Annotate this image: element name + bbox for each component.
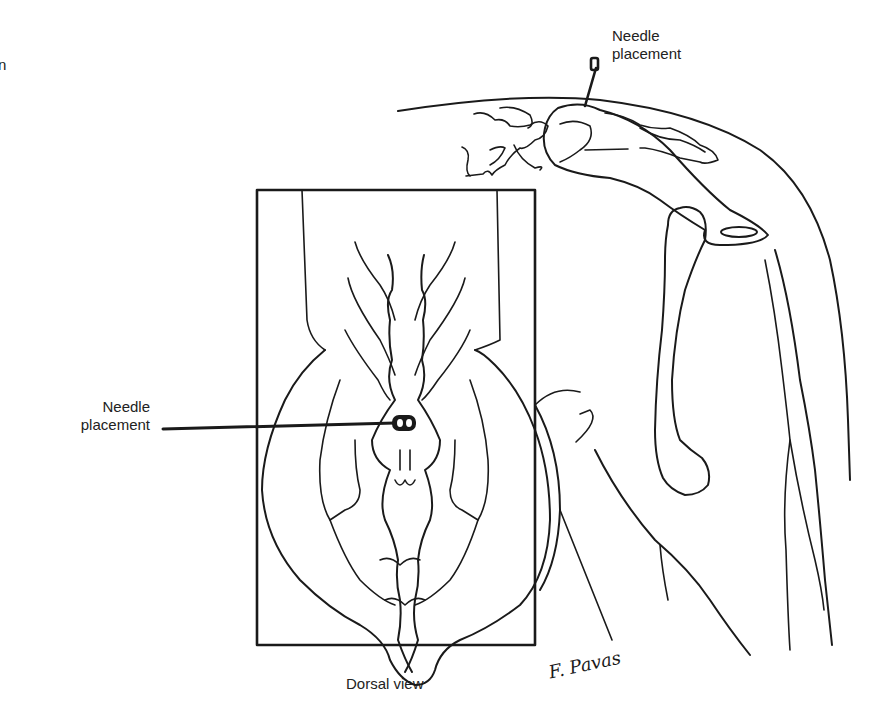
lateral-view [398,58,850,655]
vertebral-column [372,255,412,672]
dorsal-needle-pointer [163,423,395,429]
pelvis-ilium [544,104,768,245]
femur [655,207,709,495]
rear-leg-outline [775,250,832,645]
back-outline [398,98,850,480]
pelvis-outline [262,350,550,685]
anatomical-illustration [0,0,871,718]
obturator-foramen [721,227,757,237]
dorsal-view [163,190,612,685]
lateral-needle-hub [591,58,598,70]
